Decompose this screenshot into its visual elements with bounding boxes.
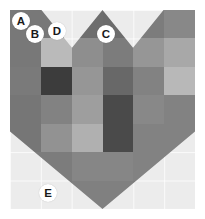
heatmap-cell (41, 95, 72, 123)
heatmap-cell (133, 67, 164, 95)
heatmap-cell (72, 67, 103, 95)
heatmap-cell (164, 38, 195, 66)
heatmap-cell (103, 124, 134, 152)
heatmap-cell (164, 95, 195, 123)
marker-c-label: C (102, 28, 110, 40)
marker-d: D (48, 22, 66, 40)
heatmap-cell (72, 95, 103, 123)
heatmap-cell (164, 67, 195, 95)
marker-d-label: D (53, 25, 61, 37)
marker-b-label: B (31, 28, 39, 40)
heatmap-cell (133, 124, 164, 152)
marker-e: E (39, 184, 57, 202)
figure-canvas: A B C D E (0, 0, 205, 219)
heatmap-cell (103, 95, 134, 123)
heatmap-cell (41, 124, 72, 152)
marker-c: C (97, 25, 115, 43)
heatmap-cell (72, 152, 103, 180)
heatmap-cell (10, 67, 41, 95)
heatmap-cell (103, 152, 134, 180)
heatmap-cell (41, 38, 72, 66)
marker-e-label: E (44, 187, 52, 199)
heatmap-cell (133, 95, 164, 123)
heatmap-cell (10, 95, 41, 123)
marker-a-label: A (17, 15, 25, 27)
heatmap-cell (103, 67, 134, 95)
heatmap-cell (133, 38, 164, 66)
heatmap-cell (72, 38, 103, 66)
heatmap-cell (41, 67, 72, 95)
heatmap-cell (72, 124, 103, 152)
marker-b: B (26, 25, 44, 43)
heatmap-cell (164, 10, 195, 38)
